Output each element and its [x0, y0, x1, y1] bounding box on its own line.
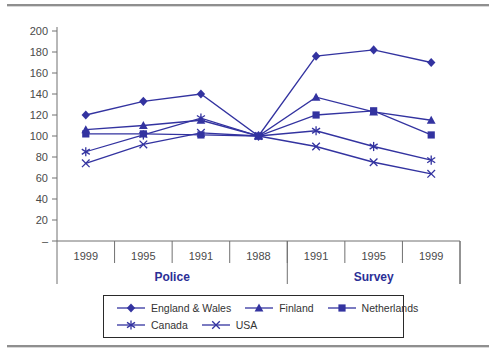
legend-item-england-wales: England & Wales — [116, 302, 231, 314]
legend-label: Netherlands — [362, 302, 419, 314]
legend-item-finland: Finland — [244, 302, 313, 314]
y-tick-label: 80 — [36, 151, 48, 163]
legend-row: CanadaUSA — [116, 317, 397, 334]
diamond-marker-icon — [82, 110, 90, 119]
line-chart-canvas: –204060801001201401601802001999199519911… — [0, 0, 496, 292]
legend-item-netherlands: Netherlands — [327, 302, 419, 314]
square-marker-icon — [338, 304, 345, 311]
legend-label: Canada — [151, 319, 188, 331]
y-tick-label: 120 — [30, 109, 48, 121]
y-tick-label: 180 — [30, 46, 48, 58]
triangle-marker-icon — [312, 93, 321, 101]
y-tick-label: – — [42, 235, 49, 247]
x-category-label: 1988 — [246, 250, 270, 262]
x-category-label: 1999 — [74, 250, 98, 262]
legend-label: USA — [236, 319, 258, 331]
x-category-label: 1999 — [419, 250, 443, 262]
y-tick-label: 20 — [36, 214, 48, 226]
legend-key-icon — [116, 319, 146, 331]
series-line-england-wales — [86, 50, 431, 136]
x-category-label: 1991 — [304, 250, 328, 262]
y-tick-label: 200 — [30, 25, 48, 37]
diamond-marker-icon — [369, 45, 377, 54]
group-label-police: Police — [154, 270, 190, 284]
y-tick-label: 160 — [30, 67, 48, 79]
chart-legend: England & WalesFinlandNetherlandsCanadaU… — [103, 295, 404, 338]
legend-key-icon — [244, 302, 274, 314]
legend-item-canada: Canada — [116, 319, 188, 331]
legend-key-icon — [327, 302, 357, 314]
group-label-survey: Survey — [354, 270, 394, 284]
square-marker-icon — [428, 131, 435, 138]
bottom-rule — [7, 345, 489, 348]
diamond-marker-icon — [197, 89, 205, 98]
x-category-label: 1991 — [189, 250, 213, 262]
y-tick-label: 60 — [36, 172, 48, 184]
y-tick-label: 140 — [30, 88, 48, 100]
x-category-label: 1995 — [361, 250, 385, 262]
legend-item-usa: USA — [201, 319, 258, 331]
diamond-marker-icon — [427, 58, 435, 67]
square-marker-icon — [370, 107, 377, 114]
y-tick-label: 40 — [36, 193, 48, 205]
legend-label: Finland — [279, 302, 313, 314]
square-marker-icon — [82, 130, 89, 137]
diamond-marker-icon — [139, 97, 147, 106]
legend-key-icon — [201, 319, 231, 331]
legend-row: England & WalesFinlandNetherlands — [116, 300, 397, 317]
square-marker-icon — [312, 111, 319, 118]
figure-page: –204060801001201401601802001999199519911… — [0, 0, 496, 353]
y-tick-label: 100 — [30, 130, 48, 142]
legend-key-icon — [116, 302, 146, 314]
x-category-label: 1995 — [131, 250, 155, 262]
legend-label: England & Wales — [151, 302, 231, 314]
diamond-marker-icon — [127, 303, 135, 312]
